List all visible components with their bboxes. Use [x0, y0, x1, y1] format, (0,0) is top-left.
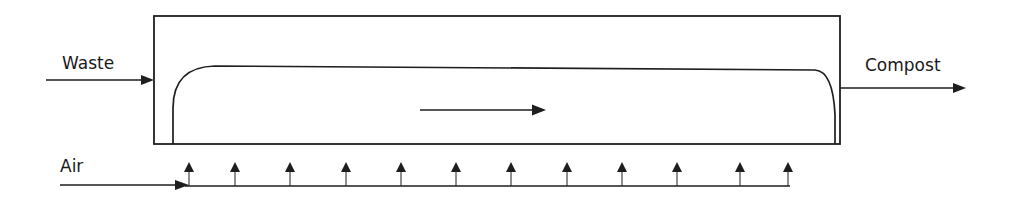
air-nozzles	[184, 162, 793, 186]
air-input-arrow	[60, 180, 189, 190]
air-nozzle-arrow-icon	[341, 162, 351, 186]
waste-input-arrow	[46, 75, 154, 85]
waste-label: Waste	[62, 53, 114, 73]
air-nozzle-arrow-icon	[230, 162, 240, 186]
air-nozzle-arrow-icon	[451, 162, 461, 186]
air-nozzle-arrow-icon	[184, 162, 194, 186]
compost-output-arrow	[840, 83, 966, 93]
air-nozzle-arrow-icon	[396, 162, 406, 186]
air-nozzle-arrow-icon	[617, 162, 627, 186]
air-nozzle-arrow-icon	[562, 162, 572, 186]
compost-pile-outline	[173, 66, 835, 144]
air-label: Air	[60, 156, 83, 176]
air-nozzle-arrow-icon	[672, 162, 682, 186]
air-nozzle-arrow-icon	[783, 162, 793, 186]
composting-diagram: Waste Compost Air	[0, 0, 1012, 199]
air-nozzle-arrow-icon	[735, 162, 745, 186]
air-nozzle-arrow-icon	[285, 162, 295, 186]
air-nozzle-arrow-icon	[506, 162, 516, 186]
flow-direction-arrow	[420, 105, 546, 116]
reactor-vessel	[154, 16, 840, 144]
compost-label: Compost	[865, 55, 941, 75]
